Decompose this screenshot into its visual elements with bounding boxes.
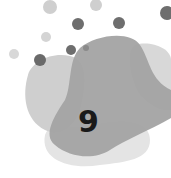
dot — [83, 45, 89, 51]
dot — [160, 6, 171, 20]
dot — [66, 45, 76, 55]
dot — [34, 54, 46, 66]
number-badge-graphic: 9 — [0, 0, 171, 178]
dot — [113, 17, 125, 29]
dot — [9, 49, 19, 59]
dot — [72, 18, 84, 30]
decorative-blobs — [0, 0, 171, 178]
dot — [43, 0, 57, 14]
dot — [41, 32, 51, 42]
dot — [90, 0, 102, 11]
number-label: 9 — [78, 107, 99, 137]
